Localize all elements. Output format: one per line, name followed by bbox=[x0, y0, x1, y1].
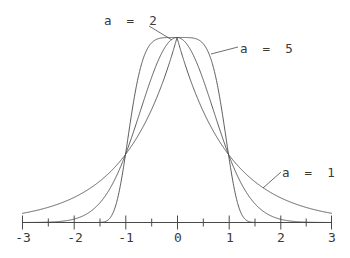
curve-a-2 bbox=[23, 38, 332, 223]
curve-annotation-a5: a = 5 bbox=[240, 41, 293, 56]
data-curves bbox=[23, 38, 332, 223]
chart-figure: -3 -2 -1 0 1 2 3 a = 2 a = 5 a = 1 bbox=[0, 0, 350, 258]
x-tick-label--3: -3 bbox=[15, 230, 31, 245]
curve-a-1 bbox=[23, 38, 332, 214]
curve-annotation-a1: a = 1 bbox=[282, 165, 335, 180]
leader-line-a5 bbox=[211, 47, 238, 54]
x-tick-label-3: 3 bbox=[328, 230, 336, 245]
x-tick-label--2: -2 bbox=[67, 230, 83, 245]
x-tick-label-1: 1 bbox=[226, 230, 234, 245]
x-tick-label--1: -1 bbox=[118, 230, 134, 245]
x-tick-label-2: 2 bbox=[277, 230, 285, 245]
plot-canvas bbox=[0, 0, 350, 258]
curve-a-5 bbox=[23, 38, 332, 223]
leader-line-a1 bbox=[263, 172, 281, 188]
x-tick-label-0: 0 bbox=[174, 230, 182, 245]
curve-annotation-a2: a = 2 bbox=[104, 13, 157, 28]
